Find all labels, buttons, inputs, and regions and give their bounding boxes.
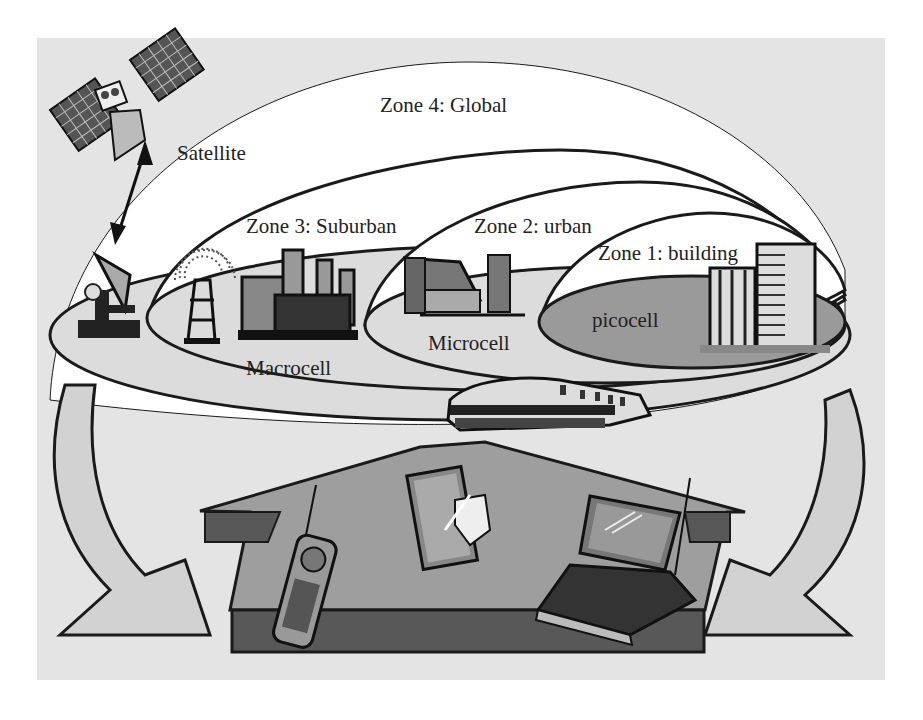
zone3-label: Zone 3: Suburban xyxy=(246,214,397,238)
macrocell-label: Macrocell xyxy=(246,356,331,380)
zone2-label: Zone 2: urban xyxy=(474,214,592,238)
microcell-label: Microcell xyxy=(428,331,510,355)
zone4-label: Zone 4: Global xyxy=(380,93,507,117)
zone1-label: Zone 1: building xyxy=(598,241,738,265)
satellite-label: Satellite xyxy=(177,141,246,165)
picocell-label: picocell xyxy=(592,308,659,332)
hierarchical-cell-structure-diagram: Zone 4: Global Satellite Zone 3: Suburba… xyxy=(0,0,923,720)
